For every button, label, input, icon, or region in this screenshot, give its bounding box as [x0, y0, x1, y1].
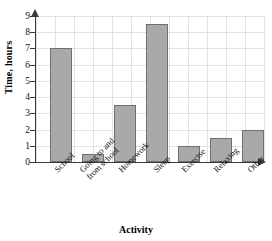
y-tick-label: 7	[18, 44, 30, 54]
y-tick-label: 3	[18, 109, 30, 119]
y-tick-label: 2	[18, 126, 30, 136]
y-axis-title: Time, hours	[3, 12, 14, 124]
y-tick-label: 5	[18, 77, 30, 87]
bar-chart: 9 8 7 6 5 4 3 2 1 0 Time, hours School G…	[0, 0, 272, 241]
y-tick-label: 9	[18, 12, 30, 22]
y-tick-label: 8	[18, 28, 30, 38]
y-tick-label: 6	[18, 61, 30, 71]
x-axis-title: Activity	[0, 224, 272, 235]
y-tick-label: 0	[18, 158, 30, 168]
y-tick-label: 4	[18, 93, 30, 103]
y-tick-labels: 9 8 7 6 5 4 3 2 1 0	[0, 0, 272, 241]
y-tick-label: 1	[18, 142, 30, 152]
